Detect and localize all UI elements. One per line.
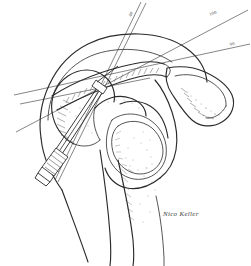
guide-labels-group: 40 100 90 [127, 9, 235, 47]
acromion-lateral-notch [206, 106, 226, 118]
scapula-medial-border [120, 101, 168, 138]
screw-shaft-upper-edge [54, 85, 99, 152]
guide-label-c: 90 [229, 41, 235, 47]
artist-signature: Nico Keller [162, 210, 199, 218]
humeral-shaft-right-edge [156, 196, 164, 266]
humeral-shaft-lateral [100, 150, 111, 266]
coracoid-outline [95, 96, 146, 116]
clavicle-lateral-end [164, 64, 170, 77]
glenoid-stippling [126, 132, 153, 171]
shoulder-illustration: 40 100 90 Nico Keller [0, 0, 251, 266]
guide-label-a: 40 [127, 10, 134, 17]
clavicle-group [52, 62, 170, 110]
humeral-shaft-far-lateral [118, 160, 134, 266]
acromion-stippling [187, 92, 220, 116]
humeral-shaft-medial [62, 190, 88, 262]
soft-tissue-contour-group [40, 34, 207, 190]
screw-head-group [35, 148, 68, 186]
guide-label-b: 100 [209, 9, 218, 17]
guide-line-short-horizontal [20, 78, 150, 104]
guide-lines-group [14, 2, 250, 182]
coracoid-inferior-curve [94, 108, 100, 140]
glenoid-rim [106, 114, 166, 179]
screw-head-body [42, 148, 68, 176]
coracoid-group [94, 96, 146, 140]
screw-shaft-lower-edge [60, 90, 104, 157]
clavicle-inferior-border [57, 75, 167, 110]
humeral-shaft-group [62, 150, 164, 266]
guide-line-horizontal [14, 44, 250, 95]
screw-cannulation-line [57, 88, 102, 155]
acromion-group [166, 67, 234, 126]
screw-head-end-cap [35, 173, 50, 186]
figure-root: 40 100 90 Nico Keller [0, 0, 251, 266]
